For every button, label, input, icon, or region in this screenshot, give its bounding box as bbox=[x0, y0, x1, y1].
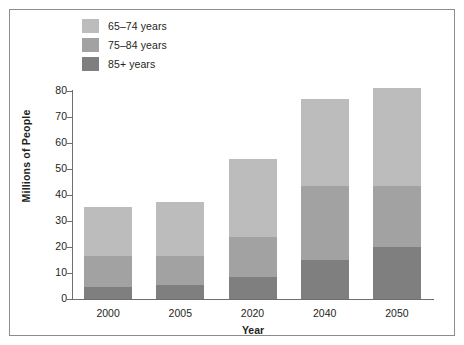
y-tick-label: 70 bbox=[41, 111, 67, 122]
bar-segment[interactable] bbox=[84, 287, 132, 299]
bar-segment[interactable] bbox=[229, 159, 277, 237]
y-tick-mark bbox=[67, 299, 73, 300]
y-tick-label: 30 bbox=[41, 215, 67, 226]
plot-area bbox=[72, 91, 433, 299]
x-tick-label: 2005 bbox=[150, 307, 210, 319]
y-tick-label: 80 bbox=[41, 85, 67, 96]
y-tick-mark bbox=[67, 273, 73, 274]
y-tick-label: 40 bbox=[41, 189, 67, 200]
y-tick-label: 10 bbox=[41, 267, 67, 278]
y-tick-mark bbox=[67, 247, 73, 248]
bar-segment[interactable] bbox=[301, 186, 349, 260]
x-tick-label: 2000 bbox=[78, 307, 138, 319]
bar-segment[interactable] bbox=[84, 207, 132, 256]
bar-group[interactable] bbox=[84, 207, 132, 299]
bar-segment[interactable] bbox=[156, 202, 204, 257]
y-tick-mark bbox=[67, 221, 73, 222]
bar-segment[interactable] bbox=[301, 99, 349, 186]
chart-figure: 65–74 years 75–84 years 85+ years 010203… bbox=[0, 0, 464, 345]
bar-segment[interactable] bbox=[373, 186, 421, 247]
y-tick-label: 0 bbox=[41, 293, 67, 304]
bar-group[interactable] bbox=[373, 88, 421, 299]
y-tick-label: 50 bbox=[41, 163, 67, 174]
y-tick-mark bbox=[67, 91, 73, 92]
y-tick-label: 60 bbox=[41, 137, 67, 148]
x-tick-label: 2050 bbox=[367, 307, 427, 319]
y-axis-title: Millions of People bbox=[20, 86, 32, 226]
y-tick-mark bbox=[67, 143, 73, 144]
legend-item-85-plus: 85+ years bbox=[82, 54, 232, 73]
legend-label-75-84: 75–84 years bbox=[108, 39, 167, 51]
chart-legend: 65–74 years 75–84 years 85+ years bbox=[82, 16, 232, 73]
bar-segment[interactable] bbox=[373, 247, 421, 299]
bar-segment[interactable] bbox=[156, 285, 204, 299]
bar-segment[interactable] bbox=[156, 256, 204, 285]
y-tick-mark bbox=[67, 195, 73, 196]
bar-group[interactable] bbox=[301, 99, 349, 299]
bar-segment[interactable] bbox=[373, 88, 421, 186]
bar-segment[interactable] bbox=[84, 256, 132, 287]
y-axis-ticks: 01020304050607080 bbox=[33, 0, 67, 345]
bar-segment[interactable] bbox=[229, 277, 277, 299]
x-tick-label: 2040 bbox=[295, 307, 355, 319]
y-tick-label: 20 bbox=[41, 241, 67, 252]
legend-label-65-74: 65–74 years bbox=[108, 20, 167, 32]
y-tick-mark bbox=[67, 169, 73, 170]
bar-group[interactable] bbox=[229, 159, 277, 299]
x-axis-title: Year bbox=[72, 324, 434, 336]
legend-swatch-icon-65-74 bbox=[82, 19, 99, 33]
legend-label-85-plus: 85+ years bbox=[108, 58, 155, 70]
legend-swatch-icon-85-plus bbox=[82, 57, 99, 71]
bar-segment[interactable] bbox=[229, 237, 277, 277]
x-tick-label: 2020 bbox=[223, 307, 283, 319]
x-axis-line bbox=[72, 299, 434, 300]
legend-item-75-84: 75–84 years bbox=[82, 35, 232, 54]
y-tick-mark bbox=[67, 117, 73, 118]
legend-swatch-icon-75-84 bbox=[82, 38, 99, 52]
bar-segment[interactable] bbox=[301, 260, 349, 299]
bar-group[interactable] bbox=[156, 202, 204, 300]
legend-item-65-74: 65–74 years bbox=[82, 16, 232, 35]
